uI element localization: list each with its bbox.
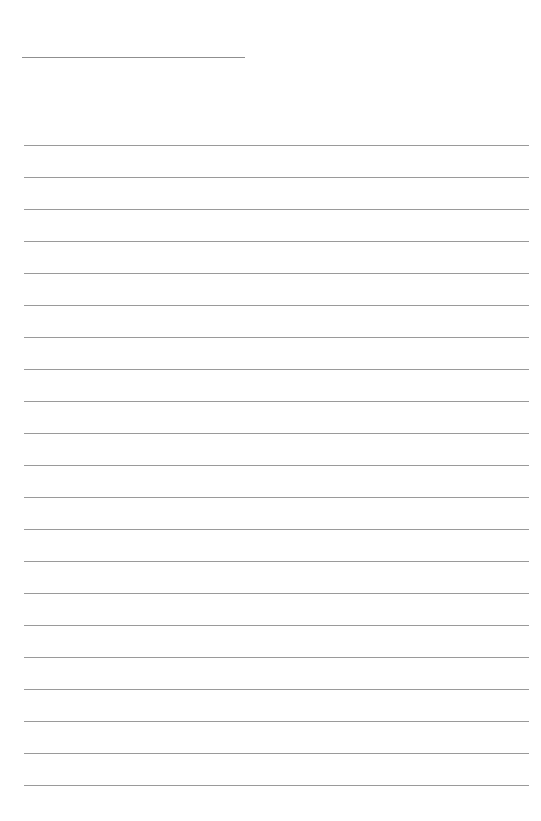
ruled-line: [24, 625, 529, 626]
ruled-line: [24, 721, 529, 722]
ruled-line: [24, 529, 529, 530]
ruled-line: [24, 145, 529, 146]
ruled-line: [24, 369, 529, 370]
ruled-line: [24, 497, 529, 498]
ruled-line: [24, 401, 529, 402]
ruled-line: [24, 657, 529, 658]
ruled-line: [24, 689, 529, 690]
ruled-line: [24, 305, 529, 306]
ruled-line: [24, 273, 529, 274]
ruled-lines-container: [0, 0, 541, 821]
ruled-line: [24, 433, 529, 434]
ruled-line: [24, 593, 529, 594]
ruled-line: [24, 177, 529, 178]
ruled-line: [24, 561, 529, 562]
ruled-line: [24, 753, 529, 754]
ruled-line: [24, 241, 529, 242]
ruled-line: [24, 785, 529, 786]
ruled-line: [24, 209, 529, 210]
ruled-line: [24, 337, 529, 338]
ruled-line: [24, 465, 529, 466]
